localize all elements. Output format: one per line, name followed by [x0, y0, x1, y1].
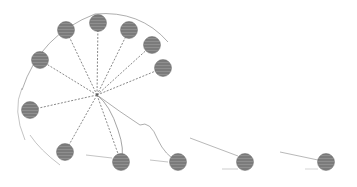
spoke-line — [97, 45, 152, 95]
illustration — [0, 0, 357, 187]
sphere — [57, 144, 74, 161]
spoke-line — [97, 68, 163, 95]
motion-line — [150, 160, 168, 162]
spokes — [30, 23, 163, 162]
sphere — [22, 102, 39, 119]
spoke-line — [97, 30, 129, 95]
sphere — [121, 22, 138, 39]
sphere — [90, 15, 107, 32]
sphere — [155, 60, 172, 77]
spoke-line — [65, 95, 97, 152]
motion-line — [86, 155, 112, 158]
spheres-illustration — [0, 0, 357, 187]
spoke-line — [97, 23, 98, 95]
string — [280, 152, 318, 160]
arc-line — [30, 135, 60, 165]
sphere — [170, 154, 187, 171]
balls — [22, 15, 335, 171]
sphere — [237, 154, 254, 171]
sphere — [58, 22, 75, 39]
spoke-line — [30, 95, 97, 110]
sphere — [144, 37, 161, 54]
string — [190, 138, 238, 156]
sphere — [318, 154, 335, 171]
sphere — [32, 52, 49, 69]
sphere — [113, 154, 130, 171]
